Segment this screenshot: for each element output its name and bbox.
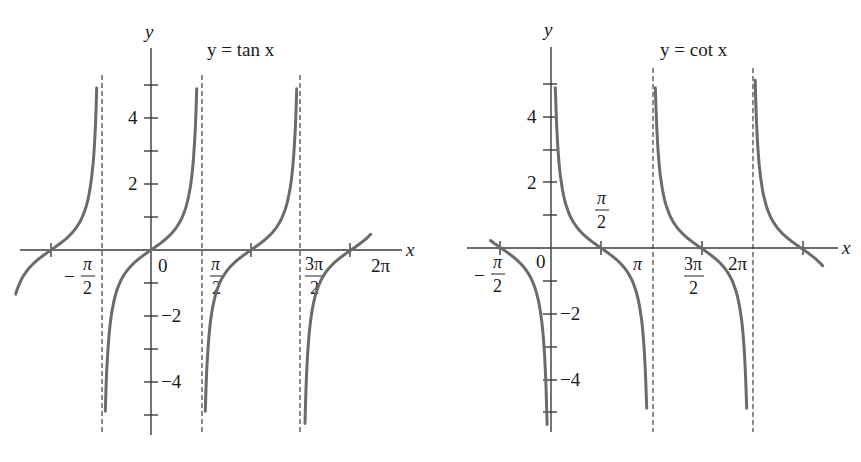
cot-y-label-2: 2 (527, 172, 537, 193)
cot-x-label-neg-pi-half: − π 2 (474, 252, 505, 296)
tan-x-label-0: 0 (158, 255, 168, 276)
svg-text:2: 2 (689, 278, 698, 298)
svg-text:2: 2 (83, 278, 92, 298)
cot-x-label-3pi-half: 3π 2 (684, 254, 704, 298)
tan-y-label-4: 4 (128, 107, 138, 128)
svg-text:2: 2 (597, 212, 606, 232)
svg-text:3π: 3π (684, 254, 702, 274)
cot-title: y = cot x (660, 39, 728, 60)
svg-text:−: − (474, 265, 485, 286)
tan-y-label-neg4: −4 (161, 371, 182, 392)
cot-chart: x y y = cot x 4 2 −2 −4 − π (467, 19, 851, 432)
svg-text:−: − (64, 266, 75, 287)
tan-x-label-neg-pi-half: − π 2 (64, 254, 95, 298)
cot-x-axis-label: x (841, 237, 851, 258)
cot-y-label-neg4: −4 (560, 369, 581, 390)
tan-x-label-2pi: 2π (371, 255, 391, 276)
tan-y-label-2: 2 (128, 173, 138, 194)
cot-x-label-pi: π (633, 254, 643, 274)
cot-y-label-neg2: −2 (560, 303, 580, 324)
svg-text:π: π (83, 254, 93, 274)
tan-x-axis-label: x (405, 239, 415, 260)
cot-x-label-0: 0 (536, 251, 546, 272)
svg-text:2: 2 (493, 276, 502, 296)
tan-chart: x y y = tan x 4 2 −2 −4 (16, 21, 415, 435)
svg-text:π: π (211, 254, 221, 274)
tan-y-label-neg2: −2 (161, 305, 181, 326)
cot-x-label-2pi: 2π (728, 253, 748, 274)
cot-y-label-4: 4 (527, 106, 537, 127)
svg-text:π: π (493, 252, 503, 272)
figure: x y y = tan x 4 2 −2 −4 (0, 0, 861, 462)
svg-text:3π: 3π (305, 254, 323, 274)
cot-y-axis-label: y (542, 19, 553, 40)
tan-y-axis-label: y (143, 21, 154, 42)
svg-text:π: π (597, 188, 607, 208)
cot-x-label-pi-half: π 2 (595, 188, 609, 232)
tan-title: y = tan x (207, 39, 275, 60)
